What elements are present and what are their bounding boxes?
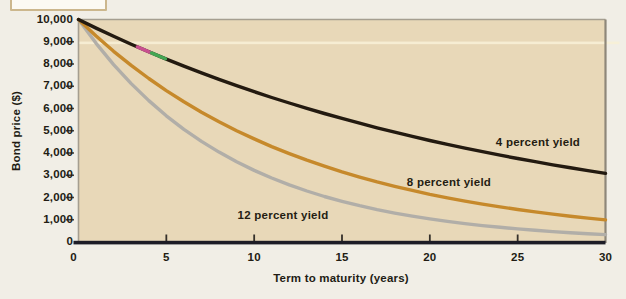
x-tick-label-25: 25 (511, 251, 524, 263)
y-tick-label-10000: 10,000 (0, 13, 73, 25)
y-tick-label-4000: 4,000 (0, 146, 73, 158)
bond-price-figure: Bond price ($) Term to maturity (years) … (0, 0, 626, 299)
y-tick-label-5000: 5,000 (0, 124, 73, 136)
y-tick-label-9000: 9,000 (0, 35, 73, 47)
x-tick-label-10: 10 (248, 251, 261, 263)
highlight-stripe (79, 42, 620, 45)
y-tick-label-6000: 6,000 (0, 102, 73, 114)
x-tick-label-5: 5 (163, 251, 170, 263)
y-tick-label-1000: 1,000 (0, 213, 73, 225)
y-tick-label-8000: 8,000 (0, 57, 73, 69)
x-axis-line (74, 241, 606, 245)
plot-area (79, 20, 606, 243)
y-tick-label-7000: 7,000 (0, 79, 73, 91)
x-tick-label-0: 0 (70, 251, 77, 263)
series-label-4-percent-yield: 4 percent yield (496, 136, 580, 148)
y-tick-label-3000: 3,000 (0, 168, 73, 180)
x-tick-label-30: 30 (599, 251, 612, 263)
x-axis-title: Term to maturity (years) (273, 272, 409, 284)
y-tick-label-2000: 2,000 (0, 191, 73, 203)
bond-price-chart (0, 0, 626, 299)
series-label-8-percent-yield: 8 percent yield (407, 176, 491, 188)
x-tick-label-20: 20 (423, 251, 436, 263)
x-tick-label-15: 15 (335, 251, 348, 263)
y-tick-label-0: 0 (0, 235, 73, 247)
series-label-12-percent-yield: 12 percent yield (238, 209, 329, 221)
